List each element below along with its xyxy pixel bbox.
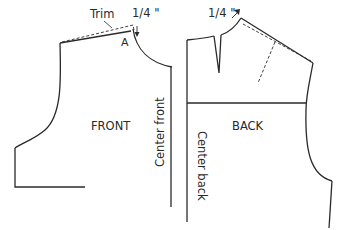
back-armhole xyxy=(306,63,332,181)
back-measure-label: 1/4 " xyxy=(208,8,235,20)
pattern-drawing xyxy=(0,0,338,230)
back-neckline xyxy=(221,18,241,35)
front-piece xyxy=(15,21,172,207)
center-back-label: Center back xyxy=(196,131,208,201)
front-neckline xyxy=(133,29,172,67)
trim-label: Trim xyxy=(90,9,114,21)
front-trim-leader xyxy=(104,21,112,28)
back-side-seam xyxy=(329,181,332,228)
back-dart xyxy=(214,35,221,73)
back-shoulder-dashed xyxy=(243,24,311,61)
front-armhole xyxy=(15,43,60,148)
front-label: FRONT xyxy=(91,121,130,133)
point-a-label: A xyxy=(121,37,129,48)
center-front-label: Center front xyxy=(155,97,167,167)
back-label: BACK xyxy=(232,121,263,133)
back-dart-dashed xyxy=(258,42,275,83)
back-neck-top xyxy=(187,36,214,40)
front-measure-label: 1/4 " xyxy=(132,8,159,20)
front-side-seam xyxy=(15,148,85,187)
front-measure-arrowhead xyxy=(135,32,140,37)
